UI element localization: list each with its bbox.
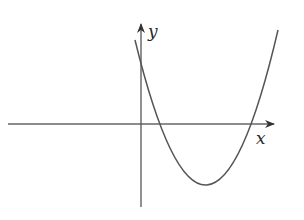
parabola-curve xyxy=(135,30,278,185)
function-graph: y x xyxy=(0,0,304,220)
x-axis-label: x xyxy=(256,128,266,148)
y-axis-label: y xyxy=(147,21,158,41)
